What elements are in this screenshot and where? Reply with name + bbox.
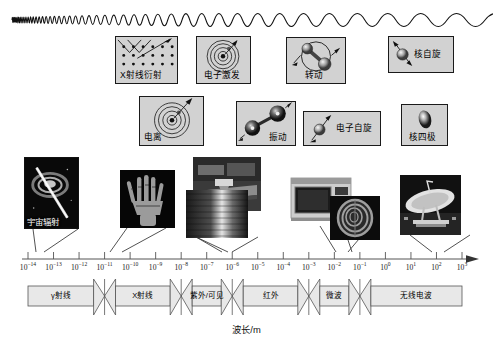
axis-tick-label: 10−1 <box>353 264 367 272</box>
diagram-label: 核四极 <box>409 133 436 142</box>
axis-tick-label: 10−4 <box>277 264 291 272</box>
axis-tick-label: 10−13 <box>45 264 61 272</box>
axis-title: 波长/m <box>0 322 493 336</box>
wave-illustration <box>0 0 493 40</box>
electromagnetic-spectrum-figure: X射线衍射 电子激发 <box>0 0 493 343</box>
diagram-label: 转动 <box>305 71 323 80</box>
axis-tick-label: 103 <box>457 264 467 272</box>
axis-tick-label: 10−3 <box>302 264 316 272</box>
band-microwave-join-right <box>360 279 371 315</box>
band-uv-visible-join-right <box>232 279 243 315</box>
diagram-vibration[interactable]: 振动 <box>236 101 296 146</box>
axis-tick-label: 10−6 <box>225 264 239 272</box>
photo-radio-dish[interactable] <box>400 175 461 235</box>
diagram-label: 电子自旋 <box>336 124 372 133</box>
diagram-ionization[interactable]: 电离 <box>139 96 204 146</box>
axis-tick-label: 101 <box>406 264 416 272</box>
axis-tick-label: 10−7 <box>200 264 214 272</box>
photo-label: 宇宙辐射 <box>27 218 59 226</box>
diagram-label: 振动 <box>269 133 287 142</box>
axis-tick-label: 102 <box>431 264 441 272</box>
diagram-nuclear-quadrupole[interactable]: 核四极 <box>401 104 448 146</box>
diagram-label: 电离 <box>144 133 162 142</box>
photo-xray-hand[interactable] <box>120 170 175 228</box>
diagram-label: 电子激发 <box>204 71 240 80</box>
axis-tick-label: 10−8 <box>174 264 188 272</box>
band-x-ray-join-left <box>170 279 181 315</box>
diagram-rotation[interactable]: 转动 <box>286 37 346 84</box>
axis-tick-label: 10−5 <box>251 264 265 272</box>
axis-tick-label: 10−10 <box>122 264 138 272</box>
photo-infrared-heater[interactable] <box>186 190 248 238</box>
axis-tick-label: 100 <box>380 264 390 272</box>
diagram-electron-excitation[interactable]: 电子激发 <box>196 36 251 84</box>
spectrum-bands: γ射线X射线紫外/可见红外微波无线电波 <box>0 279 493 321</box>
band-microwave-label: 微波 <box>326 292 342 300</box>
photo-cosmic-radiation[interactable]: 宇宙辐射 <box>24 157 79 229</box>
axis-tick-label: 10−14 <box>20 264 36 272</box>
band-x-ray-label: X射线 <box>132 292 153 300</box>
band-gamma-ray-join-left <box>94 279 105 315</box>
band-infrared-join-right <box>309 279 320 315</box>
photo-mri-scan[interactable] <box>330 196 380 240</box>
axis-tick-label: 10−12 <box>71 264 87 272</box>
band-uv-visible-label: 紫外/可见 <box>190 292 224 300</box>
band-microwave-join-left <box>349 279 360 315</box>
band-gamma-ray-label: γ射线 <box>51 292 71 300</box>
diagram-label: 核自旋 <box>414 50 441 59</box>
axis-tick-label: 10−11 <box>97 264 113 272</box>
band-infrared-join-left <box>298 279 309 315</box>
diagram-label: X射线衍射 <box>120 71 162 80</box>
axis-tick-label: 10−2 <box>328 264 342 272</box>
band-radio-wave-label: 无线电波 <box>400 292 432 300</box>
diagram-xray-diffraction[interactable]: X射线衍射 <box>115 36 178 84</box>
diagram-nuclear-spin[interactable]: 核自旋 <box>388 36 454 73</box>
axis-tick-label: 10−9 <box>149 264 163 272</box>
band-infrared-label: 红外 <box>263 292 279 300</box>
diagram-electron-spin[interactable]: 电子自旋 <box>303 111 381 146</box>
band-gamma-ray-join-right <box>105 279 116 315</box>
